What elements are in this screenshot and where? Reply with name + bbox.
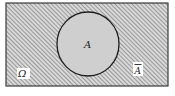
universe-label: Ω xyxy=(17,68,26,79)
set-a-label: A xyxy=(83,39,91,50)
venn-diagram: A Ω A xyxy=(0,0,175,96)
complement-label: A xyxy=(134,66,142,76)
